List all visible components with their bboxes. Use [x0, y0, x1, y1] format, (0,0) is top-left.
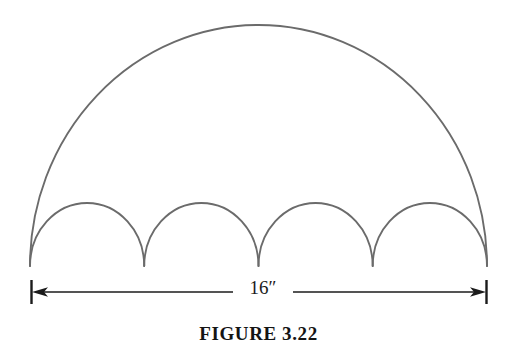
- figure-container: 16″ FIGURE 3.22: [0, 0, 517, 354]
- figure-caption: FIGURE 3.22: [0, 322, 517, 346]
- small-arch-2: [144, 203, 258, 266]
- small-arch-1: [30, 203, 144, 266]
- small-arch-4: [373, 203, 487, 266]
- dimension-label: 16″: [233, 276, 293, 300]
- large-arch-arc: [30, 25, 487, 266]
- geometry-diagram: [0, 0, 517, 354]
- small-arch-3: [259, 203, 373, 266]
